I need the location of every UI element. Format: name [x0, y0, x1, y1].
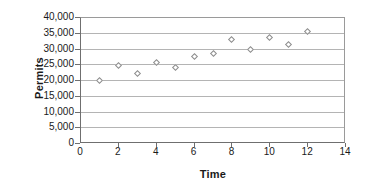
- scatter-chart: Permits 40,00035,00030,00025,00020,00015…: [0, 0, 367, 188]
- x-tick-label: 6: [182, 147, 206, 157]
- x-tick-label: 2: [106, 147, 130, 157]
- data-point: [304, 28, 311, 35]
- data-point: [172, 64, 179, 71]
- gridline: [81, 96, 344, 97]
- y-tick-label: 40,000: [28, 12, 74, 22]
- y-tick-label: 15,000: [28, 91, 74, 101]
- x-axis-title: Time: [80, 168, 346, 180]
- gridline: [81, 80, 344, 81]
- y-tick-label: 25,000: [28, 59, 74, 69]
- y-tick-mark: [75, 143, 80, 144]
- x-tick-label: 12: [295, 147, 319, 157]
- y-tick-label: 35,000: [28, 28, 74, 38]
- data-point: [266, 34, 273, 41]
- y-tick-mark: [75, 49, 80, 50]
- data-point: [228, 36, 235, 43]
- x-tick-mark: [194, 143, 195, 147]
- data-point: [285, 41, 292, 48]
- x-tick-label: 4: [144, 147, 168, 157]
- data-point: [191, 53, 198, 60]
- x-tick-label: 0: [68, 147, 92, 157]
- data-point: [134, 70, 141, 77]
- y-tick-mark: [75, 33, 80, 34]
- y-tick-mark: [75, 64, 80, 65]
- x-tick-label: 14: [333, 147, 357, 157]
- x-tick-mark: [156, 143, 157, 147]
- y-tick-label: 10,000: [28, 107, 74, 117]
- x-tick-mark: [307, 143, 308, 147]
- data-point: [115, 62, 122, 69]
- y-tick-mark: [75, 127, 80, 128]
- y-tick-mark: [75, 80, 80, 81]
- x-tick-mark: [345, 143, 346, 147]
- y-tick-mark: [75, 112, 80, 113]
- y-tick-label: 30,000: [28, 44, 74, 54]
- y-tick-label: 20,000: [28, 75, 74, 85]
- gridline: [81, 112, 344, 113]
- y-tick-mark: [75, 17, 80, 18]
- x-tick-mark: [118, 143, 119, 147]
- data-point: [209, 50, 216, 57]
- data-point: [96, 77, 103, 84]
- x-tick-label: 10: [257, 147, 281, 157]
- plot-area: [80, 17, 345, 143]
- data-point: [247, 46, 254, 53]
- y-tick-mark: [75, 96, 80, 97]
- gridline: [81, 127, 344, 128]
- x-tick-mark: [269, 143, 270, 147]
- x-tick-mark: [231, 143, 232, 147]
- x-tick-label: 8: [219, 147, 243, 157]
- y-tick-label: 5,000: [28, 122, 74, 132]
